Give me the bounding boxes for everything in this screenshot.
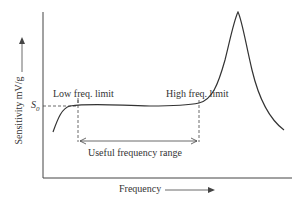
y-axis-label: Sensitivity mV/g bbox=[13, 66, 24, 156]
frequency-response-diagram bbox=[0, 0, 305, 206]
x-axis-label: Frequency bbox=[119, 183, 161, 194]
high-limit-label: High freq. limit bbox=[166, 88, 229, 99]
range-label: Useful frequency range bbox=[88, 147, 182, 158]
response-curve bbox=[53, 12, 284, 132]
low-limit-label: Low freq. limit bbox=[53, 88, 114, 99]
s0-label: S0 bbox=[31, 99, 40, 113]
